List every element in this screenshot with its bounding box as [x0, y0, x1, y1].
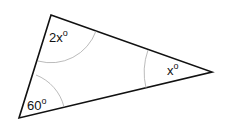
angle-arc-right	[144, 50, 148, 88]
angle-label-right: xo	[167, 61, 179, 78]
angle-label-top: 2xo	[49, 28, 68, 45]
angle-label-bottom-left: 60o	[27, 96, 46, 113]
triangle	[19, 15, 212, 118]
triangle-diagram: 2xo xo 60o	[0, 0, 231, 124]
